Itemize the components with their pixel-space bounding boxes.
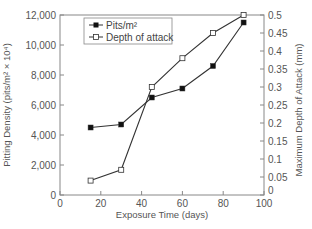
x-tick-label: 20	[95, 198, 107, 209]
y2-tick-label: 0.25	[268, 100, 288, 111]
y2-tick-label: 0.4	[268, 46, 282, 57]
y2-tick-label: 0.3	[268, 82, 282, 93]
right-y-axis-title: Maximum Depth of Attack (mm)	[293, 43, 304, 176]
filled-square-marker-icon	[94, 23, 99, 28]
y2-tick-label: 0.1	[268, 154, 282, 165]
x-tick-label: 80	[218, 198, 230, 209]
y-tick-label: 8,000	[31, 70, 56, 81]
y2-tick-label: 0.45	[268, 28, 288, 39]
open-square-marker-icon	[88, 178, 93, 183]
chart-canvas: 02,0004,0006,0008,00010,00012,000 00.050…	[0, 0, 312, 229]
y2-tick-label: 0.2	[268, 118, 282, 129]
y-tick-label: 0	[50, 190, 56, 201]
left-y-axis: 02,0004,0006,0008,00010,00012,000	[25, 10, 64, 201]
legend-label-depth: Depth of attack	[106, 32, 174, 43]
y2-tick-label: 0.05	[268, 172, 288, 183]
open-square-marker-icon	[180, 56, 185, 61]
legend: Pits/m² Depth of attack	[84, 18, 174, 44]
y-tick-label: 6,000	[31, 100, 56, 111]
x-tick-label: 100	[256, 198, 273, 209]
pitting-chart: 02,0004,0006,0008,00010,00012,000 00.050…	[0, 0, 312, 229]
left-y-axis-title: Pitting Density (pits/m² × 10⁴)	[1, 43, 12, 167]
y2-tick-label: 0	[268, 185, 274, 196]
y2-tick-label: 0.15	[268, 136, 288, 147]
x-axis-title: Exposure Time (days)	[116, 209, 208, 220]
open-square-marker-icon	[241, 13, 246, 18]
filled-square-marker-icon	[180, 86, 185, 91]
y-tick-label: 4,000	[31, 130, 56, 141]
x-axis: 020406080100	[57, 191, 273, 209]
x-tick-label: 60	[177, 198, 189, 209]
filled-square-marker-icon	[211, 64, 216, 69]
filled-square-marker-icon	[119, 122, 124, 127]
y2-tick-label: 0.35	[268, 64, 288, 75]
x-tick-label: 40	[136, 198, 148, 209]
legend-label-pits: Pits/m²	[106, 20, 138, 31]
y-tick-label: 2,000	[31, 160, 56, 171]
open-square-marker-icon	[149, 85, 154, 90]
open-square-marker-icon	[119, 167, 124, 172]
filled-square-marker-icon	[88, 125, 93, 130]
filled-square-marker-icon	[149, 95, 154, 100]
x-tick-label: 0	[57, 198, 63, 209]
open-square-marker-icon	[94, 35, 99, 40]
open-square-marker-icon	[211, 31, 216, 36]
filled-square-marker-icon	[241, 20, 246, 25]
y-tick-label: 10,000	[25, 40, 56, 51]
y-tick-label: 12,000	[25, 10, 56, 21]
y2-tick-label: 0.5	[268, 10, 282, 21]
